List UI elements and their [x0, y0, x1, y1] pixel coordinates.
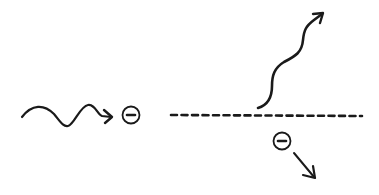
incident-photon-wave-icon	[22, 105, 112, 126]
scattering-dashed-line	[171, 115, 362, 116]
diagram-canvas	[0, 0, 379, 195]
recoil-electron-icon	[274, 133, 291, 150]
diagram-svg	[0, 0, 379, 195]
incident-electron-icon	[123, 107, 140, 124]
scattered-photon-wave-icon	[258, 13, 323, 108]
recoil-arrow-icon	[294, 153, 315, 178]
